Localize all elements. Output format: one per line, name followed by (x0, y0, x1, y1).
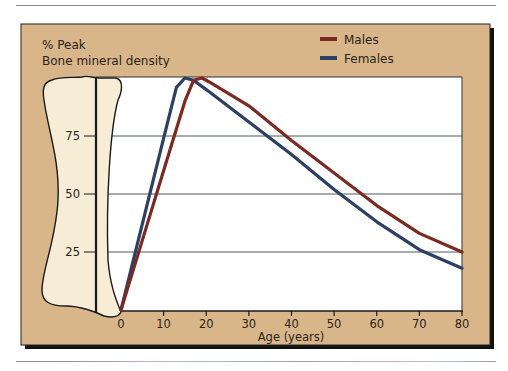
x-axis-label: Age (years) (258, 330, 325, 344)
y-tick-label: 50 (65, 187, 80, 201)
y-axis-label-line1: % Peak (42, 38, 86, 52)
x-tick-label: 80 (455, 317, 470, 331)
legend-swatch-males (320, 37, 337, 41)
legend-label-females: Females (344, 52, 394, 66)
legend-label-males: Males (344, 33, 379, 47)
bone-density-chart: 255075 01020304050607080 % Peak Bone min… (0, 0, 508, 371)
y-tick-label: 25 (65, 245, 80, 259)
x-tick-label: 10 (156, 317, 171, 331)
x-tick-label: 30 (242, 317, 257, 331)
x-tick-label: 50 (327, 317, 342, 331)
x-tick-label: 60 (369, 317, 384, 331)
bottom-rule (16, 361, 496, 362)
y-axis-label-line2: Bone mineral density (42, 54, 170, 68)
x-tick-label: 20 (199, 317, 214, 331)
x-tick-label: 0 (117, 317, 124, 331)
y-tick-label: 75 (65, 129, 80, 143)
x-tick-label: 40 (284, 317, 299, 331)
legend-swatch-females (320, 56, 337, 60)
x-tick-label: 70 (412, 317, 427, 331)
